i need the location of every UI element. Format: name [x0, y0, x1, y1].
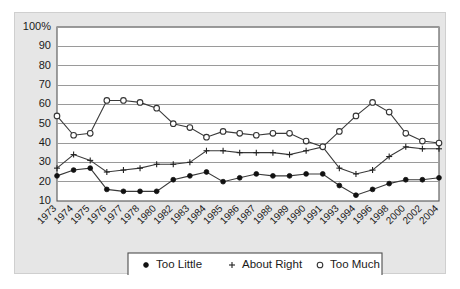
legend-label: Too Little [156, 258, 202, 270]
data-point [270, 131, 276, 137]
data-point [386, 109, 392, 115]
data-point [204, 170, 209, 175]
data-point [187, 173, 192, 178]
data-point [354, 193, 359, 198]
legend-marker-open-circle [317, 262, 323, 268]
data-point [320, 144, 326, 150]
data-point [154, 105, 160, 111]
data-point [54, 113, 60, 119]
legend-label: About Right [242, 258, 303, 270]
chart-figure: 100%908070605040302010 19731974197519761… [0, 0, 460, 289]
y-tick-label: 100% [23, 20, 51, 32]
data-point [303, 138, 309, 144]
data-point [71, 132, 77, 138]
data-point [237, 131, 243, 137]
data-point [254, 172, 259, 177]
legend-label: Too Much [330, 258, 380, 270]
data-point [387, 181, 392, 186]
data-point [403, 131, 409, 137]
data-point [320, 172, 325, 177]
y-tick-label: 50 [39, 117, 51, 129]
data-point [71, 168, 76, 173]
chart-panel: 100%908070605040302010 19731974197519761… [14, 12, 446, 274]
chart-legend: Too LittleAbout RightToo Much [128, 253, 382, 275]
data-point [436, 140, 442, 146]
data-point [237, 175, 242, 180]
data-point [420, 138, 426, 144]
data-point [154, 189, 159, 194]
data-point [287, 131, 293, 137]
data-point [121, 189, 126, 194]
data-point [204, 134, 210, 140]
data-point [137, 100, 143, 106]
data-point [104, 98, 110, 104]
data-point [304, 172, 309, 177]
data-point [221, 179, 226, 184]
y-tick-label: 80 [39, 59, 51, 71]
data-point [254, 132, 260, 138]
data-point [287, 173, 292, 178]
y-axis-tick-labels: 100%908070605040302010 [23, 20, 51, 206]
data-point [353, 113, 359, 119]
y-tick-label: 20 [39, 175, 51, 187]
data-point [104, 187, 109, 192]
y-tick-label: 90 [39, 39, 51, 51]
data-point [138, 189, 143, 194]
y-tick-label: 30 [39, 155, 51, 167]
data-point [88, 166, 93, 171]
data-point [171, 177, 176, 182]
x-axis-tick-labels: 1973197419751976197719781980198219831984… [35, 202, 441, 226]
data-point [187, 125, 193, 131]
data-point [121, 98, 127, 104]
y-tick-label: 40 [39, 136, 51, 148]
data-point [370, 100, 376, 106]
data-point [403, 177, 408, 182]
data-point [87, 131, 93, 137]
y-tick-label: 70 [39, 78, 51, 90]
data-point [271, 173, 276, 178]
data-point [437, 175, 442, 180]
legend-marker-filled-circle [144, 263, 149, 268]
line-chart: 100%908070605040302010 19731974197519761… [15, 13, 447, 275]
data-point [337, 129, 343, 135]
data-point [370, 187, 375, 192]
plot-area [57, 27, 439, 201]
data-point [170, 121, 176, 127]
plot-background [57, 27, 439, 201]
y-tick-label: 60 [39, 97, 51, 109]
x-tick-label: 2004 [417, 202, 441, 226]
data-point [337, 183, 342, 188]
data-point [220, 129, 226, 135]
data-point [420, 177, 425, 182]
data-point [55, 173, 60, 178]
